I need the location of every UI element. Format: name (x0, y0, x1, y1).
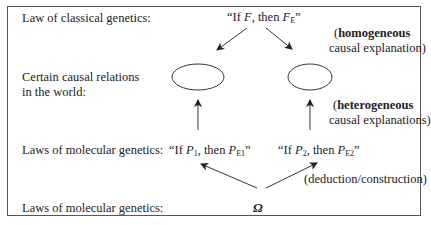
arrow-omega-to-p2 (266, 163, 317, 188)
arrow-omega-to-p1 (201, 164, 257, 188)
causal-relation-ellipse-right (288, 64, 332, 90)
causal-relation-ellipse-left (172, 64, 224, 90)
arrow-classical-to-left (217, 28, 247, 50)
arrow-classical-to-right (266, 28, 292, 49)
